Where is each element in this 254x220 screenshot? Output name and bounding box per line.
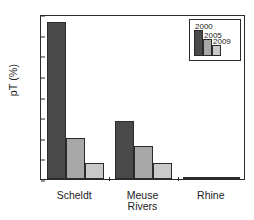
bar-rhine-2005 [202, 177, 221, 179]
chart-figure: pT (%) 0.00.51.01.52.02.53.03.54.0 20002… [0, 0, 254, 220]
y-tick-mark [41, 16, 45, 17]
y-tick-mark [41, 77, 45, 78]
bar-scheldt-2000 [47, 22, 66, 179]
bar-meuse-2000 [115, 121, 134, 179]
bar-scheldt-2009 [85, 163, 104, 180]
bar-meuse-2009 [153, 163, 172, 180]
bar-group [115, 16, 172, 179]
legend-swatch-2000 [194, 30, 203, 56]
legend-label-2000: 2000 [195, 23, 213, 31]
legend-box: 200020052009 [189, 19, 241, 61]
bar-rhine-2009 [221, 177, 240, 179]
legend-swatch-2005 [203, 39, 212, 56]
bar-group [47, 16, 104, 179]
x-axis-title: Rivers [40, 200, 245, 212]
legend-label-2009: 2009 [213, 38, 231, 46]
bar-rhine-2000 [183, 177, 202, 179]
legend-swatch-2009 [212, 45, 221, 56]
y-tick-mark [41, 119, 45, 120]
y-axis-title: pT (%) [7, 45, 19, 115]
bar-scheldt-2005 [66, 138, 85, 179]
y-tick-mark [41, 139, 45, 140]
x-tick-mark [178, 177, 179, 181]
y-tick-mark [41, 36, 45, 37]
y-tick-mark [41, 160, 45, 161]
plot-area: 0.00.51.01.52.02.53.03.54.0 200020052009 [40, 15, 245, 180]
bar-meuse-2005 [134, 146, 153, 179]
y-tick-mark [41, 57, 45, 58]
y-tick-mark [41, 98, 45, 99]
x-tick-mark [109, 177, 110, 181]
y-tick-mark [41, 181, 45, 182]
